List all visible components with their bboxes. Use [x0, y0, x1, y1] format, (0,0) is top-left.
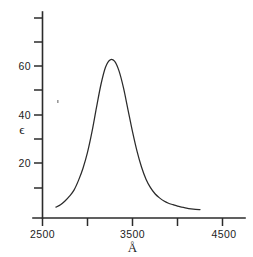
spectrum-figure: 60 40 20 ϵ 2500 3500 4500 Å: [0, 0, 253, 257]
x-tick-label-4500: 4500: [212, 228, 237, 240]
x-axis-ticks: [43, 218, 223, 226]
x-tick-label-3500: 3500: [120, 228, 145, 240]
chart-canvas: 60 40 20 ϵ 2500 3500 4500 Å: [0, 0, 253, 257]
scan-speck: [57, 100, 59, 103]
y-axis-title: ϵ: [19, 122, 25, 137]
y-axis-ticks: [34, 18, 43, 188]
y-tick-label-40: 40: [19, 109, 31, 121]
y-tick-label-20: 20: [19, 157, 31, 169]
y-tick-label-60: 60: [19, 60, 31, 72]
absorption-curve: [56, 59, 200, 209]
x-axis-title: Å: [128, 240, 138, 255]
x-tick-label-2500: 2500: [30, 228, 55, 240]
